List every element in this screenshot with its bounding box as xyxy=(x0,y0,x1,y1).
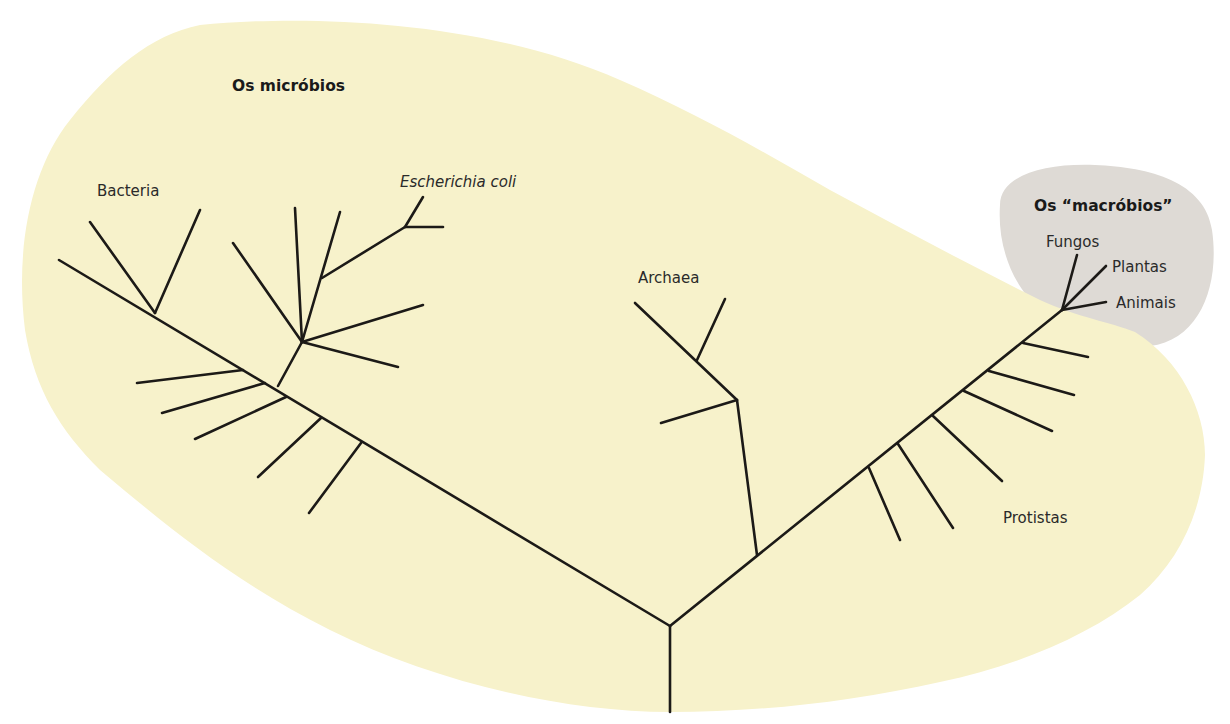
protists-label: Protistas xyxy=(1003,509,1068,527)
microbes-region xyxy=(22,21,1205,712)
microbes-title: Os micróbios xyxy=(232,77,345,95)
plants-label: Plantas xyxy=(1112,258,1167,276)
ecoli-label: Escherichia coli xyxy=(400,173,517,191)
bacteria-label: Bacteria xyxy=(97,182,159,200)
archaea-label: Archaea xyxy=(638,269,699,287)
tree-of-life-diagram: Os micróbios Os “macróbios” xyxy=(0,0,1230,724)
macrobes-title: Os “macróbios” xyxy=(1034,197,1173,215)
animals-label: Animais xyxy=(1116,294,1176,312)
fungi-label: Fungos xyxy=(1046,233,1100,251)
